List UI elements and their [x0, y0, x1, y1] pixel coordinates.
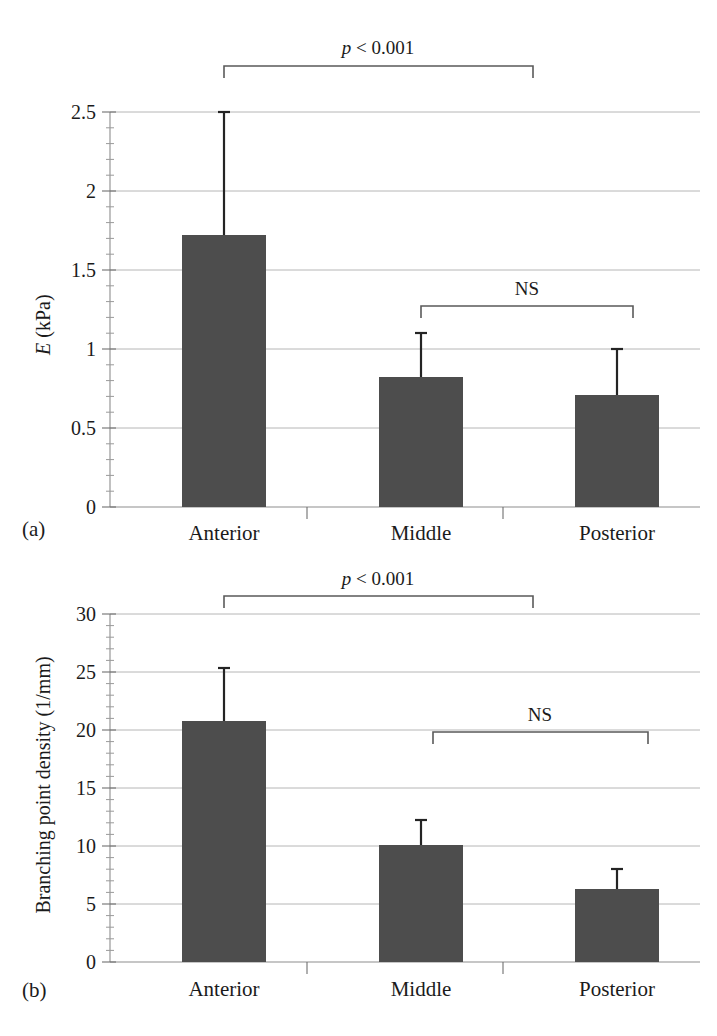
y-tick-label: 0	[86, 951, 96, 973]
figure-container: E (kPa)	[0, 0, 717, 1036]
y-tick-label: 20	[76, 719, 96, 741]
y-tick-label: 0.5	[71, 417, 96, 439]
y-axis-title-symbol: E	[32, 343, 54, 356]
panel-b-y-tick-labels: 30 25 20 15 10 5 0	[76, 603, 96, 973]
x-tick-label-middle: Middle	[391, 521, 452, 545]
y-tick-label: 30	[76, 603, 96, 625]
panel-a-significance-bracket-ns: NS	[421, 278, 633, 318]
y-tick-label: 1.5	[71, 259, 96, 281]
panel-b-ns-label: NS	[528, 704, 552, 725]
panel-b-x-ticks	[307, 962, 503, 974]
panel-a-tag: (a)	[22, 517, 45, 542]
y-tick-label: 2.5	[71, 101, 96, 123]
x-tick-label-anterior: Anterior	[188, 977, 259, 1001]
panel-b-significance-bracket-p: p < 0.001	[224, 570, 533, 608]
y-tick-label: 25	[76, 661, 96, 683]
x-tick-label-anterior: Anterior	[188, 521, 259, 545]
panel-a-y-axis-title: E (kPa)	[32, 294, 55, 356]
panel-b-significance-bracket-ns: NS	[433, 704, 648, 744]
y-tick-label: 10	[76, 835, 96, 857]
panel-a-significance-bracket-p: p < 0.001	[224, 37, 533, 78]
panel-a-x-tick-labels: Anterior Middle Posterior	[188, 521, 654, 545]
panel-b-p-value-label: p < 0.001	[340, 570, 414, 589]
panel-b-plot: Branching point density (1/mm)	[0, 570, 717, 1036]
bar-posterior	[575, 889, 659, 962]
chart-panel-a: E (kPa)	[0, 0, 717, 570]
y-tick-label: 5	[86, 893, 96, 915]
panel-b-tag: (b)	[22, 978, 47, 1003]
panel-a-ns-label: NS	[515, 278, 539, 299]
y-axis-title-label: Branching point density (1/mm)	[32, 656, 55, 913]
panel-a-error-bars	[218, 112, 623, 395]
panel-a-plot: E (kPa)	[0, 0, 717, 570]
y-axis-title-unit: (kPa)	[32, 294, 55, 342]
y-tick-label: 1	[86, 338, 96, 360]
bar-middle	[379, 845, 463, 962]
y-tick-label: 2	[86, 180, 96, 202]
bar-anterior	[182, 721, 266, 962]
chart-panel-b: Branching point density (1/mm)	[0, 570, 717, 1036]
x-tick-label-posterior: Posterior	[579, 521, 655, 545]
panel-a-p-value-label: p < 0.001	[340, 37, 414, 58]
panel-b-x-tick-labels: Anterior Middle Posterior	[188, 977, 654, 1001]
panel-b-y-axis-title: Branching point density (1/mm)	[32, 656, 55, 913]
x-tick-label-middle: Middle	[391, 977, 452, 1001]
y-tick-label: 0	[86, 496, 96, 518]
svg-text:E (kPa): E (kPa)	[32, 294, 55, 356]
panel-a-y-tick-labels: 2.5 2 1.5 1 0.5 0	[71, 101, 96, 518]
panel-a-y-major-ticks	[102, 112, 116, 507]
bar-posterior	[575, 395, 659, 507]
bar-middle	[379, 377, 463, 507]
y-tick-label: 15	[76, 777, 96, 799]
x-tick-label-posterior: Posterior	[579, 977, 655, 1001]
panel-a-x-ticks	[307, 507, 503, 519]
bar-anterior	[182, 235, 266, 507]
panel-b-y-major-ticks	[102, 614, 116, 962]
